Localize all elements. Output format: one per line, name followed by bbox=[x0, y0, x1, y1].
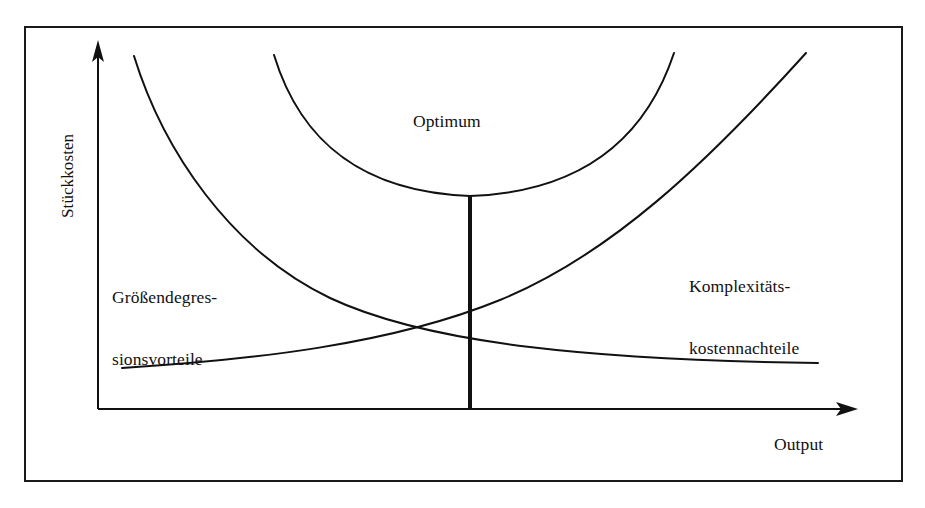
scale-economies-label: Größendegres- sionsvorteile bbox=[112, 246, 217, 411]
complexity-costs-label: Komplexitäts- kostennachteile bbox=[689, 235, 799, 400]
y-axis bbox=[92, 40, 104, 409]
scale-economies-label-line2: sionsvorteile bbox=[112, 349, 217, 370]
complexity-costs-label-line1: Komplexitäts- bbox=[689, 276, 799, 297]
figure-root: Stückkosten Output Optimum Größendegres-… bbox=[0, 0, 925, 508]
optimum-label: Optimum bbox=[413, 111, 481, 132]
x-axis-label: Output bbox=[774, 434, 823, 455]
complexity-costs-label-line2: kostennachteile bbox=[689, 338, 799, 359]
y-axis-label: Stückkosten bbox=[58, 134, 78, 218]
scale-economies-label-line1: Größendegres- bbox=[112, 287, 217, 308]
